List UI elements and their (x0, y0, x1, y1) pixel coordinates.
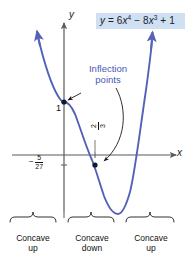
inflection-point-dot-1 (61, 99, 66, 104)
inflection-points-label: Inflection points (77, 63, 139, 85)
brace-concave-down (68, 212, 114, 222)
concavity-label-line2: up (146, 243, 155, 253)
y-axis-tick-label-neg-five-27: − 5 27 (29, 154, 43, 170)
concavity-label-middle: Concave down (63, 233, 121, 253)
inflection-pointer-left (68, 93, 81, 100)
fraction-5-27: 5 27 (35, 154, 43, 170)
concavity-label-left: Concave up (4, 233, 62, 253)
inflection-point-dot-2 (92, 162, 97, 167)
fraction-numerator: 5 (37, 154, 41, 161)
x-axis-label: x (177, 148, 182, 158)
concavity-label-line1: Concave (75, 233, 109, 243)
brace-concave-up-left (10, 212, 56, 222)
concavity-label-line1: Concave (16, 233, 50, 243)
fraction-numerator: 2 (90, 124, 97, 128)
y-axis-label: y (69, 10, 74, 20)
minus-sign: − (29, 158, 34, 166)
fraction-2-3: 2 3 (90, 122, 106, 130)
fraction-denominator: 3 (99, 124, 106, 128)
inflection-pointer-right (104, 88, 123, 161)
brace-concave-up-right (126, 212, 174, 222)
y-axis-tick-label-1: 1 (56, 104, 61, 113)
concavity-label-line2: down (82, 243, 102, 253)
graph-canvas (0, 0, 190, 263)
concavity-label-line1: Concave (134, 233, 168, 243)
equation-label: y = 6x4 − 8x3 + 1 (100, 16, 175, 26)
concavity-label-line2: up (28, 243, 37, 253)
concavity-figure: y = 6x4 − 8x3 + 1 y x Inflection points … (0, 0, 190, 263)
fraction-denominator: 27 (35, 163, 43, 170)
x-axis-tick-label-two-thirds: 2 3 (90, 122, 106, 130)
concavity-label-right: Concave up (122, 233, 180, 253)
